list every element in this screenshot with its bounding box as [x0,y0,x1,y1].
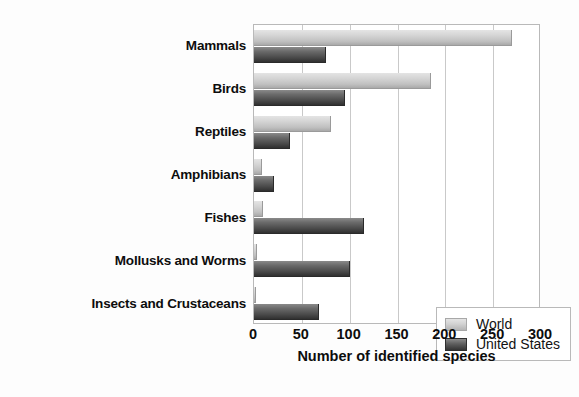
bar-group [254,244,539,277]
bar-world [254,244,257,260]
x-axis-tick-labels: 050100150200250300 [253,326,540,346]
x-tick-label: 50 [293,326,309,342]
bar-united-states [254,261,350,277]
bar-group [254,73,539,106]
bar-world [254,201,263,217]
bar-group [254,201,539,234]
bar-united-states [254,47,326,63]
bar-world [254,159,262,175]
x-tick-label: 150 [384,326,408,342]
x-tick-label: 250 [480,326,504,342]
category-label: Mammals [8,38,246,53]
bar-group [254,116,539,149]
category-label: Fishes [8,209,246,224]
category-label: Mollusks and Worms [8,252,246,267]
category-label: Reptiles [8,124,246,139]
x-axis-title: Number of identified species [253,348,540,364]
x-tick-label: 0 [249,326,257,342]
plot-area [253,24,540,324]
x-tick-label: 300 [528,326,552,342]
category-label: Amphibians [8,167,246,182]
category-axis: MammalsBirdsReptilesAmphibiansFishesMoll… [8,24,250,324]
bar-united-states [254,176,274,192]
bar-group [254,159,539,192]
bar-chart: MammalsBirdsReptilesAmphibiansFishesMoll… [0,0,579,397]
bar-united-states [254,218,364,234]
bar-united-states [254,90,345,106]
bar-group [254,30,539,63]
x-tick-label: 200 [432,326,456,342]
bar-united-states [254,304,319,320]
category-label: Insects and Crustaceans [8,295,246,310]
category-label: Birds [8,81,246,96]
bar-world [254,30,512,46]
x-tick-label: 100 [337,326,361,342]
bar-united-states [254,133,290,149]
bar-world [254,73,431,89]
bar-world [254,116,331,132]
bar-world [254,287,256,303]
